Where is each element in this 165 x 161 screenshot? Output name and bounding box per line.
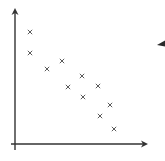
x-marker-icon <box>60 59 64 63</box>
y-axis <box>12 8 19 150</box>
x-marker-icon <box>80 74 84 78</box>
x-marker-icon <box>28 30 32 34</box>
x-marker-icon <box>66 85 70 89</box>
x-marker-icon <box>112 127 116 131</box>
x-marker-icon <box>45 67 49 71</box>
scatter-chart <box>0 0 165 161</box>
x-marker-icon <box>81 95 85 99</box>
x-marker-icon <box>98 114 102 118</box>
x-marker-icon <box>108 103 112 107</box>
x-marker-icon <box>28 51 32 55</box>
data-points <box>28 30 116 131</box>
x-marker-icon <box>96 84 100 88</box>
pointer-triangle-icon <box>157 41 165 47</box>
x-axis <box>11 141 148 148</box>
